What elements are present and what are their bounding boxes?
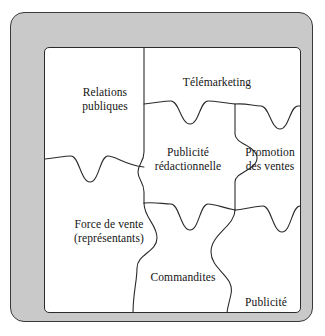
divider-bottom-right-vertical — [211, 210, 235, 313]
outer-frame: Relations publiques Télémarketing Public… — [10, 12, 313, 322]
divider-left-vertical — [138, 48, 144, 203]
divider-left-horizontal — [45, 156, 144, 182]
divider-center-right-vertical — [235, 104, 257, 210]
divider-mid-horizontal-right — [235, 206, 301, 232]
divider-mid-horizontal-left — [144, 203, 235, 230]
puzzle-panel: Relations publiques Télémarketing Public… — [44, 47, 301, 313]
puzzle-piece-outlines — [45, 48, 301, 313]
diagram-root: Relations publiques Télémarketing Public… — [0, 0, 325, 336]
divider-bottom-left-vertical — [133, 203, 157, 313]
divider-top-center-horizontal — [144, 101, 235, 124]
divider-top-right-horizontal — [235, 104, 301, 129]
